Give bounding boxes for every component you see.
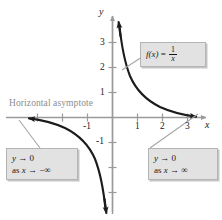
left-box-as: as xyxy=(12,165,20,175)
fraction-one-over-x: 1 x xyxy=(169,46,177,63)
limit-neg-infinity-box: y → 0 as x → −∞ xyxy=(6,148,78,180)
left-box-arrow-2: → xyxy=(28,165,37,175)
left-box-neg-infinity: −∞ xyxy=(39,165,51,175)
left-box-line1: y → 0 xyxy=(12,152,72,164)
left-box-arrow-1: → xyxy=(18,153,27,163)
x-axis-label: x xyxy=(205,120,209,130)
right-box-arrow-1: → xyxy=(160,153,169,163)
equals-sign: = xyxy=(161,49,166,59)
fraction-denominator: x xyxy=(169,54,177,63)
curve-right-branch xyxy=(119,24,196,117)
horizontal-asymptote-label: Horizontal asymptote xyxy=(9,99,93,109)
graph-figure: y x 3 2 1 -1 -1 1 2 3 Horizontal asympto… xyxy=(0,0,222,220)
y-tick-label-2: 2 xyxy=(100,63,105,73)
left-box-line2: as x → −∞ xyxy=(12,164,72,176)
right-box-y: y xyxy=(154,153,158,163)
x-tick-label-1: 1 xyxy=(135,122,140,132)
right-box-line1: y → 0 xyxy=(154,152,212,164)
right-box-zero: 0 xyxy=(172,153,177,163)
right-box-as: as xyxy=(154,165,162,175)
left-box-zero: 0 xyxy=(30,153,35,163)
y-tick-label-3: 3 xyxy=(100,38,105,48)
fraction-numerator: 1 xyxy=(169,46,177,54)
right-box-line2: as x → ∞ xyxy=(154,164,212,176)
limit-pos-infinity-box: y → 0 as x → ∞ xyxy=(148,148,218,180)
function-callout-box: f(x) = 1 x xyxy=(140,42,206,67)
y-axis-label: y xyxy=(99,7,103,17)
leader-line-right xyxy=(150,114,198,148)
function-notation: f(x) xyxy=(146,49,159,59)
x-tick-label-neg1: -1 xyxy=(83,122,91,132)
y-tick-label-neg1: -1 xyxy=(96,137,104,147)
y-tick-label-1: 1 xyxy=(100,88,105,98)
right-box-infinity: ∞ xyxy=(181,165,187,175)
leader-line-left xyxy=(19,120,40,148)
right-box-x: x xyxy=(164,165,168,175)
left-box-y: y xyxy=(12,153,16,163)
x-tick-label-3: 3 xyxy=(185,122,190,132)
x-tick-label-2: 2 xyxy=(160,122,165,132)
left-box-x: x xyxy=(22,165,26,175)
right-box-arrow-2: → xyxy=(170,165,179,175)
graph-canvas xyxy=(0,0,222,220)
